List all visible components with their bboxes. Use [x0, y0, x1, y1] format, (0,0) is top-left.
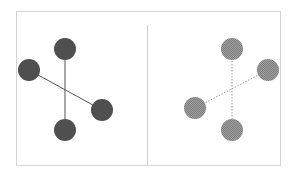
right-panel — [184, 38, 279, 141]
left-panel-edges — [29, 49, 102, 130]
right-node-bottom — [221, 119, 243, 141]
left-node-top — [54, 38, 76, 60]
left-node-bottom — [54, 119, 76, 141]
left-node-left — [18, 59, 40, 81]
frame-border — [17, 12, 281, 166]
left-panel — [18, 38, 113, 141]
right-panel-edges — [195, 49, 268, 130]
left-node-right — [91, 99, 113, 121]
right-node-right — [257, 59, 279, 81]
right-node-left — [184, 97, 206, 119]
graph-diagram — [0, 0, 292, 177]
diagram-canvas — [0, 0, 292, 177]
right-node-top — [221, 38, 243, 60]
